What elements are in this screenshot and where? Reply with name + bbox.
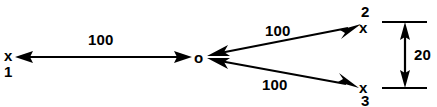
node-x1-symbol: x xyxy=(4,48,13,63)
edge-label-origin-x2: 100 xyxy=(265,23,291,38)
node-x2-symbol: x xyxy=(359,20,368,35)
origin-node-label: o xyxy=(194,50,203,65)
diagram-vector-layer: o --> x2 --> x3 --> xyxy=(0,0,437,107)
arrowhead-origin-from-x2 xyxy=(207,45,230,56)
edge-label-x1-origin: 100 xyxy=(88,32,114,47)
node-x1-index: 1 xyxy=(4,64,13,79)
edge-x1-to-origin xyxy=(15,51,192,63)
arrowhead-origin-from-x3 xyxy=(207,58,230,69)
diagram-canvas: o --> x2 --> x3 --> xyxy=(0,0,437,107)
node-x3-index: 3 xyxy=(361,93,370,107)
edge-label-origin-x3: 100 xyxy=(262,77,288,92)
arrowhead-x3 xyxy=(338,73,359,88)
arrowhead-x2 xyxy=(340,24,361,39)
node-x2-index: 2 xyxy=(361,4,370,19)
dimension-label: 20 xyxy=(414,47,431,62)
